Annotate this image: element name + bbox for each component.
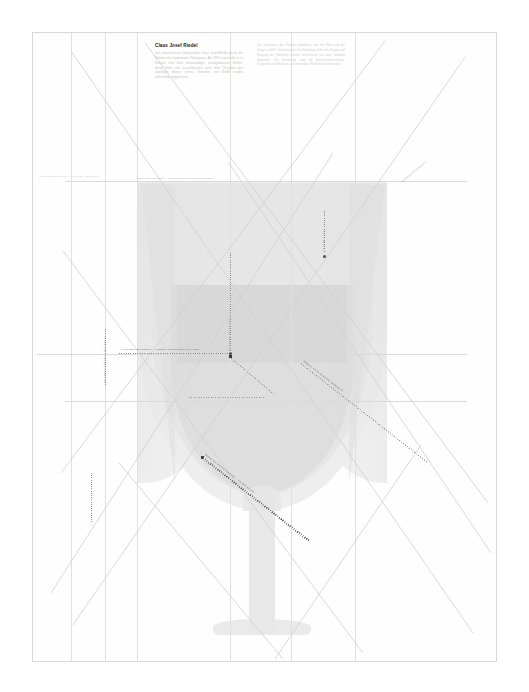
text-block: Claus Josef Riedel Der österreichische G… — [155, 43, 351, 80]
page-title: Claus Josef Riedel — [155, 43, 243, 49]
diagonal-construction-lines — [33, 33, 496, 661]
poster-canvas: Horizontale Bezugslinie — grösster Durch… — [0, 0, 529, 692]
construction-grid — [33, 33, 496, 661]
page-sheet: Horizontale Bezugslinie — grösster Durch… — [32, 32, 497, 662]
body-paragraph-right: Die Geometrie des Kelches bestimmt, wie … — [257, 43, 345, 67]
text-column-right: Die Geometrie des Kelches bestimmt, wie … — [257, 43, 345, 80]
text-column-left: Claus Josef Riedel Der österreichische G… — [155, 43, 243, 80]
body-paragraph-left: Der österreichische Glasgestalter Claus … — [155, 51, 243, 80]
caption-top-left: Oberer Rand der Kuppa — Tangentenpunkt d… — [137, 177, 213, 179]
footer-note: Konstruktionszeichnung — Kelchprofil, Ma… — [39, 175, 100, 178]
